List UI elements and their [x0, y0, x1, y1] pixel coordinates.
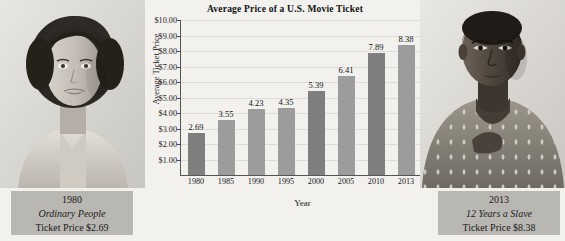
x-tick-label-1985: 1985 [218, 177, 234, 186]
right-caption-year: 2013 [438, 193, 560, 207]
bar-1990: 4.23 [248, 109, 265, 175]
gridline [181, 82, 421, 83]
y-tick-mark [177, 113, 181, 114]
bar-value-label: 5.39 [309, 80, 324, 90]
x-axis-label: Year [180, 198, 425, 208]
bar-1980: 2.69 [188, 133, 205, 175]
y-tick-label: $5.00 [159, 93, 177, 102]
portrait-photo-1980 [0, 0, 145, 188]
bar-1995: 4.35 [278, 108, 295, 175]
y-tick-mark [177, 144, 181, 145]
y-tick-label: $6.00 [159, 78, 177, 87]
bar-2013: 8.38 [398, 45, 415, 175]
gridline [181, 20, 421, 21]
x-tick-label-2010: 2010 [368, 177, 384, 186]
bar-value-label: 8.38 [399, 34, 414, 44]
bar-2010: 7.89 [368, 53, 385, 175]
gridline [181, 98, 421, 99]
gridline [181, 67, 421, 68]
right-caption: 2013 12 Years a Slave Ticket Price $8.38 [438, 191, 560, 235]
bar-2005: 6.41 [338, 76, 355, 175]
x-tick-label-1980: 1980 [188, 177, 204, 186]
y-tick-mark [177, 160, 181, 161]
bar-value-label: 4.35 [279, 97, 294, 107]
right-photo-panel: 2013 12 Years a Slave Ticket Price $8.38 [420, 0, 565, 241]
y-tick-mark [177, 98, 181, 99]
plot-area: $1.00$2.00$3.00$4.00$5.00$6.00$7.00$8.00… [181, 20, 421, 175]
x-tick-label-1995: 1995 [278, 177, 294, 186]
bar-value-label: 3.55 [219, 109, 234, 119]
bar-value-label: 2.69 [189, 122, 204, 132]
bar-2000: 5.39 [308, 91, 325, 175]
left-caption-price: Ticket Price $2.69 [11, 221, 133, 235]
portrait-photo-2013 [420, 0, 565, 188]
right-caption-price: Ticket Price $8.38 [438, 221, 560, 235]
x-tick-label-1990: 1990 [248, 177, 264, 186]
x-tick-label-2000: 2000 [308, 177, 324, 186]
y-tick-mark [177, 67, 181, 68]
left-photo-panel: 1980 Ordinary People Ticket Price $2.69 [0, 0, 145, 241]
x-tick-label-2013: 2013 [398, 177, 414, 186]
y-tick-label: $2.00 [159, 140, 177, 149]
left-caption-year: 1980 [11, 193, 133, 207]
bar-chart: Average Price of a U.S. Movie Ticket Ave… [145, 0, 425, 241]
bar-1985: 3.55 [218, 120, 235, 175]
bar-value-label: 6.41 [339, 65, 354, 75]
bar-value-label: 4.23 [249, 98, 264, 108]
y-tick-label: $10.00 [154, 16, 177, 25]
gridline [181, 113, 421, 114]
left-caption: 1980 Ordinary People Ticket Price $2.69 [11, 191, 133, 235]
x-tick-label-2005: 2005 [338, 177, 354, 186]
y-tick-label: $8.00 [159, 47, 177, 56]
y-tick-mark [177, 82, 181, 83]
y-tick-label: $3.00 [159, 124, 177, 133]
y-tick-label: $9.00 [159, 31, 177, 40]
gridline [181, 51, 421, 52]
y-tick-label: $4.00 [159, 109, 177, 118]
y-tick-mark [177, 20, 181, 21]
y-tick-mark [177, 36, 181, 37]
figure-canvas: 1980 Ordinary People Ticket Price $2.69 … [0, 0, 565, 241]
x-axis-line [180, 175, 421, 176]
y-tick-mark [177, 51, 181, 52]
left-caption-film: Ordinary People [11, 207, 133, 221]
gridline [181, 36, 421, 37]
chart-title: Average Price of a U.S. Movie Ticket [145, 4, 425, 14]
y-tick-label: $1.00 [159, 155, 177, 164]
y-tick-label: $7.00 [159, 62, 177, 71]
bar-value-label: 7.89 [369, 42, 384, 52]
right-caption-film: 12 Years a Slave [438, 207, 560, 221]
y-tick-mark [177, 129, 181, 130]
